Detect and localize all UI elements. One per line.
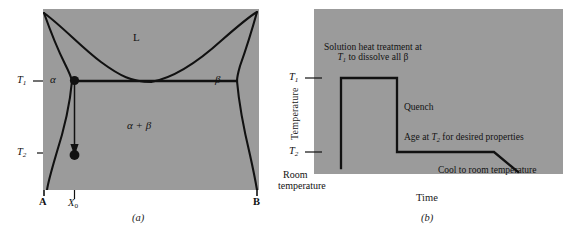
x-axis-title-time: Time [416, 192, 438, 203]
label-alpha-region: α [50, 74, 56, 86]
label-t1-panel-b: T1 [289, 71, 298, 84]
label-component-a: A [39, 196, 47, 207]
label-t2-panel-a: T2 [17, 146, 26, 159]
figure-container: T1 T2 α β L α + β A B X0 (a) [0, 0, 566, 230]
annotation-quench: Quench [404, 103, 434, 113]
annotation-cool-to-room-temperature: Cool to room temperature [438, 166, 536, 176]
liquidus-left-curve [44, 13, 151, 82]
annotation-age-pre: Age at [404, 132, 431, 142]
panel-b-heat-treatment: Temperature Time T1 T2 Room temperature … [283, 0, 566, 230]
label-beta-region: β [215, 74, 220, 86]
alloy-point-at-t1-marker [70, 76, 79, 85]
label-composition-x0: X0 [68, 197, 78, 210]
annotation-solution-heat-treatment: Solution heat treatment at T1 to dissolv… [324, 43, 422, 63]
annotation-age-post: for desired properties [440, 132, 524, 142]
label-t2-subscript-panel-b: 2 [295, 150, 299, 158]
heat-treatment-schedule-path [341, 78, 518, 172]
panel-a-phase-diagram: T1 T2 α β L α + β A B X0 (a) [0, 0, 283, 230]
caption-panel-a: (a) [132, 212, 144, 223]
y-axis-title-temperature: Temperature [289, 87, 300, 140]
label-x0-subscript: 0 [74, 202, 78, 210]
caption-panel-b: (b) [421, 212, 433, 223]
label-t1-subscript-panel-a: 1 [23, 79, 27, 87]
annotation-solution-line2-rest: to dissolve all β [346, 52, 408, 62]
solvus-beta-curve [237, 81, 257, 190]
label-room-temperature: Room temperature [283, 170, 326, 191]
alloy-point-at-t2-marker [70, 150, 80, 160]
solidus-beta-curve [237, 12, 257, 81]
label-room-temperature-line2: temperature [278, 181, 326, 192]
label-t2-subscript-panel-a: 2 [23, 151, 27, 159]
label-component-b: B [253, 196, 260, 207]
label-t1-subscript-panel-b: 1 [295, 76, 299, 84]
label-t2-panel-b: T2 [289, 145, 298, 158]
liquidus-right-curve [151, 12, 257, 82]
label-liquid-region: L [133, 32, 140, 44]
annotation-solution-line2: T1 to dissolve all β [324, 53, 422, 63]
solvus-alpha-curve [47, 81, 72, 190]
label-room-temperature-line1: Room [283, 170, 326, 181]
annotation-age-at-t2: Age at T2 for desired properties [404, 133, 524, 143]
label-t1-panel-a: T1 [17, 74, 26, 87]
label-alpha-plus-beta-region: α + β [127, 120, 151, 132]
